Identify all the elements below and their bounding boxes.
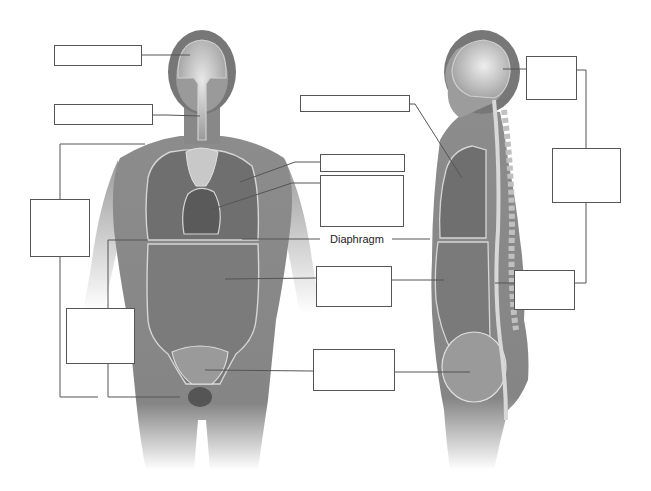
label-box-thoracic-subdivision-front[interactable]	[66, 308, 135, 364]
lateral-body	[431, 30, 528, 470]
label-box-cranial-cavity-side[interactable]	[526, 56, 577, 100]
label-box-pleural-cavity[interactable]	[320, 154, 405, 172]
label-box-vertebral-canal-side[interactable]	[514, 270, 575, 310]
label-box-pelvic-cavity[interactable]	[313, 349, 395, 391]
anterior-body	[82, 30, 322, 470]
label-box-thoracic-cavity-side[interactable]	[300, 95, 410, 112]
label-box-dorsal-or-ventral-front[interactable]	[30, 199, 90, 257]
diaphragm-label: Diaphragm	[330, 233, 384, 245]
label-box-vertebral-canal-front[interactable]	[54, 104, 153, 125]
label-box-abdominal-cavity[interactable]	[316, 266, 392, 307]
label-box-pericardial-cavity[interactable]	[320, 175, 404, 227]
label-box-dorsal-cavity-side[interactable]	[552, 148, 621, 203]
label-box-cranial-cavity-front[interactable]	[54, 45, 142, 66]
